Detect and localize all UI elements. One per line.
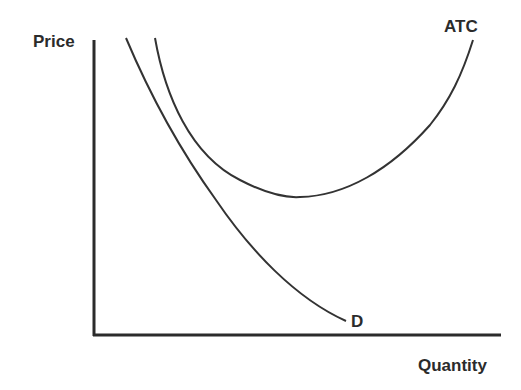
demand-curve: [126, 38, 346, 321]
y-axis-label: Price: [33, 33, 75, 50]
demand-curve-label: D: [351, 313, 363, 330]
diagram-canvas: [0, 0, 521, 390]
atc-curve: [155, 38, 473, 197]
atc-curve-label: ATC: [444, 18, 478, 35]
x-axis-label: Quantity: [418, 357, 487, 374]
